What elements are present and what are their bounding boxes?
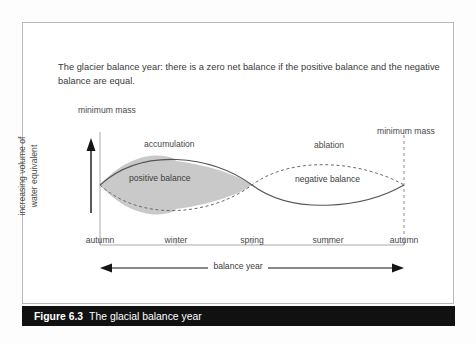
figure-title: The glacial balance year: [89, 311, 202, 322]
balance-year-label: balance year: [22, 261, 454, 271]
season-label-autumn-start: autumn: [70, 235, 130, 245]
figure-caption-paragraph: The glacier balance year: there is a zer…: [58, 61, 458, 88]
minimum-mass-left-label: minimum mass: [78, 105, 136, 115]
negative-balance-label: negative balance: [295, 174, 360, 184]
season-label-summer: summer: [298, 235, 358, 245]
increasing-volume-arrow-head: [87, 138, 96, 151]
accumulation-label: accumulation: [144, 139, 195, 149]
minimum-mass-right-label: minimum mass: [377, 126, 435, 136]
page-canvas: The glacier balance year: there is a zer…: [0, 0, 476, 344]
positive-balance-fill: [100, 156, 252, 215]
season-label-winter: winter: [146, 235, 206, 245]
figure-caption-bar: Figure 6.3 The glacial balance year: [22, 306, 455, 326]
y-axis-label-line1: increasing volume of: [16, 117, 28, 235]
figure-number: Figure 6.3: [34, 311, 83, 322]
positive-balance-label: positive balance: [129, 173, 191, 183]
y-axis-label: increasing volume of water equivalent: [16, 117, 42, 235]
glacier-balance-diagram: increasing volume of water equivalent mi…: [22, 95, 454, 295]
season-label-spring: spring: [222, 235, 282, 245]
balance-year-label-text: balance year: [208, 261, 267, 271]
ablation-label: ablation: [314, 140, 344, 150]
y-axis-label-line2: water equivalent: [28, 117, 40, 235]
season-label-autumn-end: autumn: [374, 235, 434, 245]
